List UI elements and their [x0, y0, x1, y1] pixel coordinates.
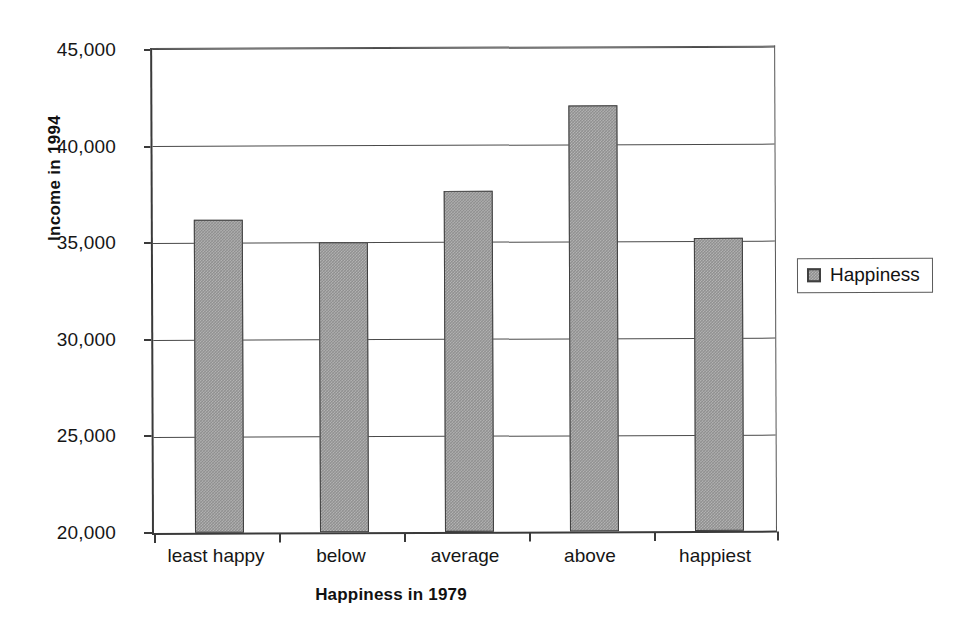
bar-happiest[interactable]: [694, 238, 744, 531]
plot-area: [150, 46, 777, 535]
bar-chart-figure: Income in 1994 45,000 40,000 35,000 30,0…: [0, 0, 962, 633]
bar-average[interactable]: [444, 191, 494, 532]
y-tick-label-25000: 25,000: [20, 425, 116, 447]
bar-least-happy[interactable]: [194, 220, 244, 533]
x-tick-mark-1: [279, 534, 281, 543]
x-tick-label-above: above: [564, 545, 616, 567]
x-axis-title: Happiness in 1979: [0, 585, 872, 605]
legend-label-happiness: Happiness: [830, 264, 920, 286]
bars-layer: [152, 47, 776, 533]
y-tick-label-20000: 20,000: [20, 522, 116, 544]
y-tick-label-45000: 45,000: [20, 39, 116, 61]
y-axis-title: Income in 1994: [45, 68, 65, 288]
x-tick-label-below: below: [316, 545, 366, 567]
y-tick-label-35000: 35,000: [20, 232, 116, 254]
x-tick-label-least-happy: least happy: [167, 545, 264, 567]
x-tick-mark-3: [529, 533, 531, 542]
y-tick-label-40000: 40,000: [20, 136, 116, 158]
x-tick-label-happiest: happiest: [679, 545, 751, 567]
bar-below[interactable]: [319, 242, 369, 532]
bar-above[interactable]: [568, 105, 619, 531]
chart-legend[interactable]: Happiness: [797, 258, 933, 293]
x-tick-mark-2: [404, 533, 406, 542]
x-tick-mark-0: [154, 534, 156, 543]
legend-swatch-happiness: [807, 268, 821, 282]
x-tick-label-average: average: [431, 545, 500, 567]
x-tick-mark-4: [654, 532, 656, 541]
y-tick-label-30000: 30,000: [20, 329, 116, 351]
x-tick-mark-5: [777, 532, 779, 541]
